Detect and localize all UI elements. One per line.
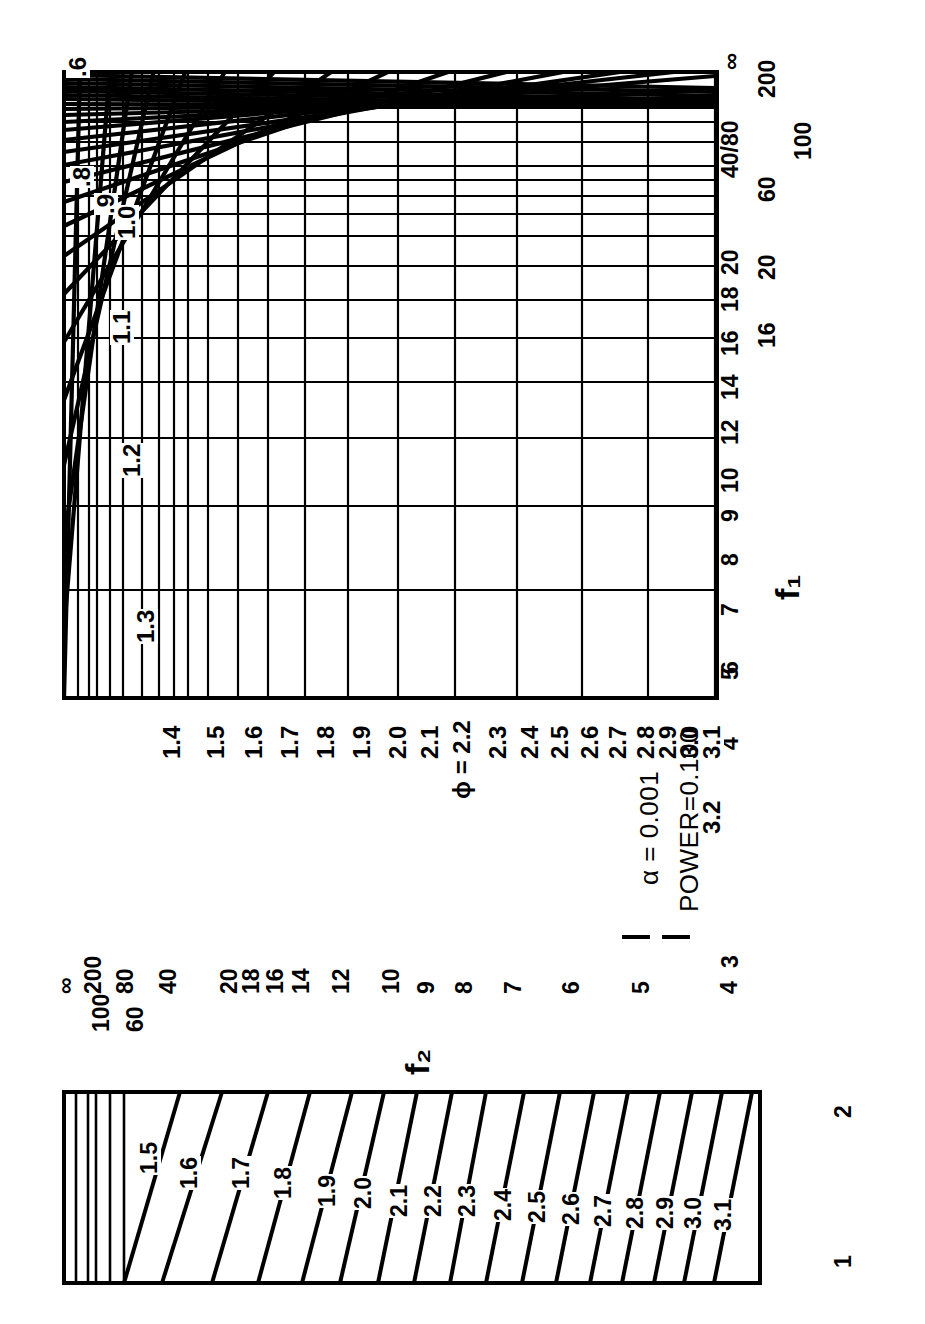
phi-label-1-8: 1.8	[314, 725, 338, 760]
f2-tick-16: 16	[264, 968, 287, 994]
f1-tick-60: 60	[756, 176, 779, 202]
alpha-leader-tick	[622, 935, 650, 939]
f1-tick-18: 18	[719, 286, 742, 312]
phi-label-1-9: 1.9	[350, 725, 374, 760]
f2-tick-14: 14	[290, 968, 313, 994]
lower-panel-group	[62, 1090, 762, 1285]
f1-axis-title: f₁	[770, 575, 804, 600]
f1-tick-9: 9	[719, 509, 742, 522]
phi-label-2-4: 2.4	[518, 725, 542, 760]
f1-tick-100: 100	[792, 122, 815, 160]
lower-plot-svg	[62, 1090, 762, 1285]
f2-tick-200: 200	[82, 956, 105, 994]
f1-tick-4: 4	[719, 737, 742, 750]
f2-tick-18: 18	[240, 968, 263, 994]
alpha-annotation: α = 0.001	[636, 771, 662, 885]
phi-label-2-8: 2.8	[634, 725, 658, 760]
f2-tick-60: 60	[124, 1006, 147, 1032]
f1-tick-7: 7	[719, 603, 742, 616]
f1-axis-ticklabels-row3: 100	[788, 60, 858, 260]
f2-tick-40: 40	[157, 968, 180, 994]
f2-tick-7: 7	[502, 981, 525, 994]
f1-tick-inf: ∞	[719, 53, 743, 70]
phi-label-1-6: 1.6	[242, 725, 266, 760]
f2-tick-4: 4	[718, 981, 741, 994]
phi-label-1-5: 1.5	[204, 725, 228, 760]
f1-axis-ticklabels-lower: 5 4 3	[715, 700, 805, 980]
f1-tick-20b: 20	[756, 254, 779, 280]
phi-label-2-0: 2.0	[386, 725, 410, 760]
f1-tick-20: 20	[719, 249, 742, 275]
f1-tick-4080: 40/80	[719, 120, 742, 178]
f1-tick-12: 12	[719, 419, 742, 445]
f2-axis-title: f₂	[400, 1049, 434, 1075]
f2-tick-6: 6	[560, 981, 583, 994]
phi-label-2-3: 2.3	[486, 725, 510, 760]
f1-tick-16: 16	[719, 330, 742, 356]
phi-label-2-2: ϕ = 2.2	[450, 719, 474, 800]
f1-tick-14: 14	[719, 374, 742, 400]
phi-label-1-4: 1.4	[160, 725, 184, 760]
main-plot-area	[64, 70, 717, 698]
power-annotation: POWER=0.100	[676, 728, 702, 912]
f1-tick-200: 200	[756, 60, 779, 98]
power-leader-tick	[662, 935, 690, 939]
f2-tick-100: 100	[90, 994, 113, 1032]
f1-tick-5: 5	[719, 667, 742, 680]
figure-canvas: ∞ 40/80 20 18 16 14 12 10 9 8 7 6 5 4 3 …	[0, 0, 925, 1324]
phi-label-2-5: 2.5	[548, 725, 572, 760]
f2-tick-5: 5	[630, 981, 653, 994]
phi-label-2-6: 2.6	[578, 725, 602, 760]
f2-tick-12: 12	[330, 968, 353, 994]
phi-label-2-1: 2.1	[418, 725, 442, 760]
f2-axis-ticklabels-row2: 100 60	[40, 1030, 290, 1080]
f2-tick-80: 80	[114, 968, 137, 994]
f1-tick-16b: 16	[756, 322, 779, 348]
f1-tick-3: 3	[719, 955, 742, 968]
f1-tick-10: 10	[719, 467, 742, 493]
f2-tick-10: 10	[380, 968, 403, 994]
lower-f1-tick-2: 2	[832, 1105, 855, 1118]
f2-tick-inf: ∞	[54, 978, 77, 994]
f1-tick-8: 8	[719, 553, 742, 566]
f2-tick-9: 9	[415, 981, 438, 994]
f2-tick-8: 8	[453, 981, 476, 994]
phi-label-1-7: 1.7	[278, 725, 302, 760]
lower-f1-tick-1: 1	[832, 1255, 855, 1268]
phi-label-2-7: 2.7	[606, 725, 630, 760]
